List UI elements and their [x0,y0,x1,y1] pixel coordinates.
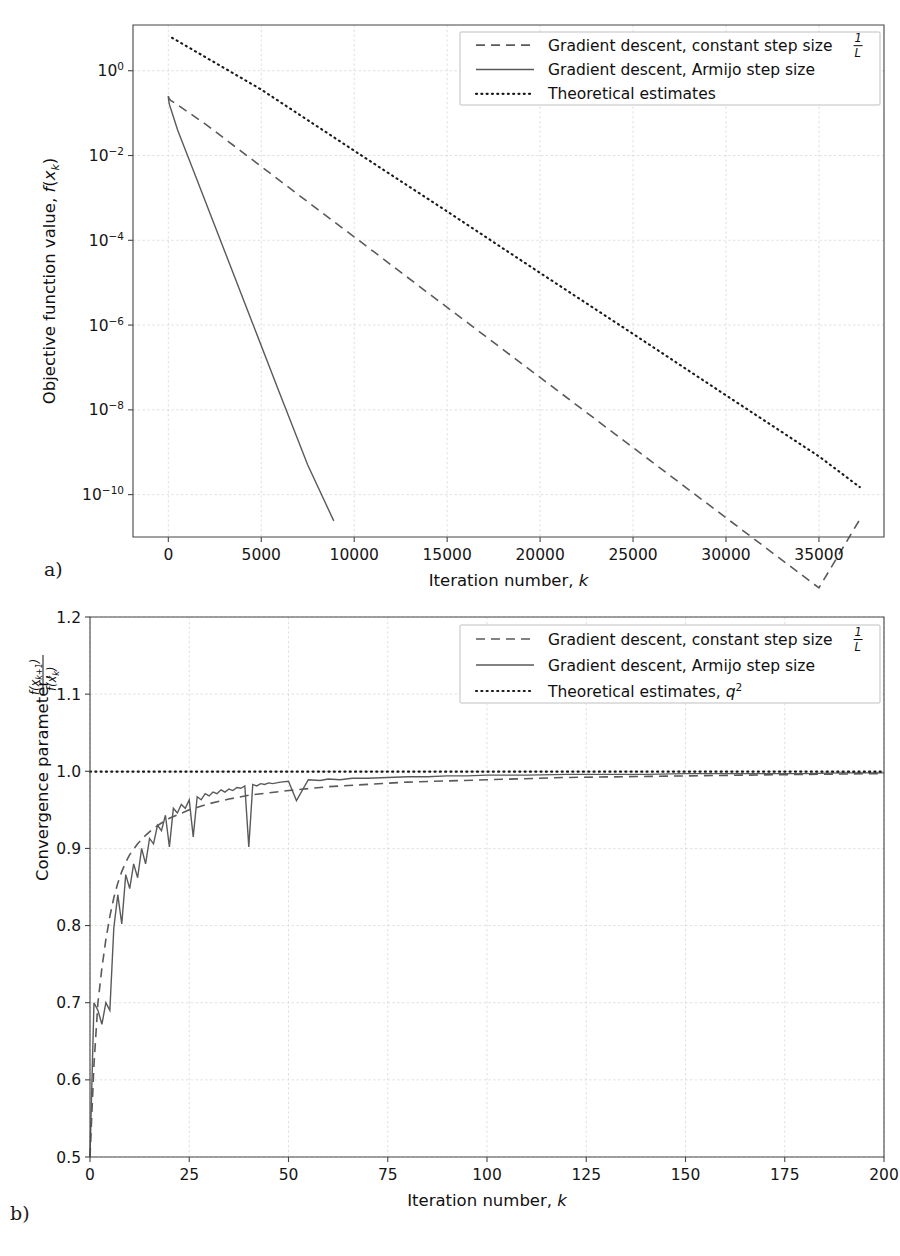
x-tick-label: 75 [378,1166,398,1184]
legend-label: Gradient descent, Armijo step size [548,657,815,675]
series-line-dashed [90,774,884,1157]
y-tick-label: 1.2 [56,609,81,627]
y-tick-label: 100 [98,60,124,80]
legend-fraction-numerator: 1 [855,625,862,639]
x-tick-label: 0 [85,1166,95,1184]
y-tick-label: 0.8 [56,917,81,935]
y-tick-label: 0.9 [56,840,81,858]
series-line-solid [168,96,333,521]
legend-a: Gradient descent, constant step size1LGr… [460,31,880,105]
x-tick-label: 35000 [794,546,843,564]
series-line-dashed [168,96,860,588]
y-axis-title-b-text: Convergence parameter, [33,675,52,881]
y-tick-label: 1.0 [56,763,81,781]
panel-label-b: b) [10,1202,30,1224]
legend-label: Theoretical estimates [547,85,716,103]
y-tick-label: 10−6 [89,315,125,335]
y-tick-label: 10−2 [89,145,124,165]
y-tick-label: 10−10 [82,484,124,504]
x-tick-label: 25 [179,1166,199,1184]
axes-a: 0500010000150002000025000300003500010010… [82,25,884,564]
x-axis-title-a: Iteration number, k [429,571,590,590]
panel-label-a: a) [44,558,63,580]
legend-fraction-denominator: L [855,640,861,654]
y-tick-label: 10−4 [89,230,125,250]
x-tick-label: 15000 [422,546,471,564]
legend-label: Theoretical estimates, q2 [547,681,742,701]
fraction-denominator: f(xk) [45,666,61,691]
chart-a-svg: 0500010000150002000025000300003500010010… [0,0,900,600]
legend-label: Gradient descent, Armijo step size [548,61,815,79]
series-group-a [168,38,860,588]
chart-panel-b: 02550751001251501752000.50.60.70.80.91.0… [0,600,900,1256]
legend-fraction-denominator: L [855,46,861,60]
legend-b: Gradient descent, constant step size1LGr… [460,625,880,703]
figure-container: 0500010000150002000025000300003500010010… [0,0,900,1256]
y-tick-label: 0.5 [56,1149,81,1167]
x-tick-label: 20000 [515,546,564,564]
legend-label: Gradient descent, constant step size [548,37,832,55]
chart-b-svg: 02550751001251501752000.50.60.70.80.91.0… [0,600,900,1256]
x-tick-label: 0 [163,546,173,564]
x-axis-title-b: Iteration number, k [407,1191,568,1210]
x-tick-label: 10000 [330,546,379,564]
x-tick-label: 100 [472,1166,502,1184]
y-tick-label: 0.6 [56,1071,81,1089]
x-tick-label: 30000 [701,546,750,564]
x-tick-label: 5000 [242,546,281,564]
legend-fraction-numerator: 1 [855,31,862,45]
x-tick-label: 50 [279,1166,299,1184]
x-tick-label: 25000 [608,546,657,564]
x-tick-label: 150 [671,1166,701,1184]
y-axis-title-a: Objective function value, f(xk) [40,158,62,405]
legend-label: Gradient descent, constant step size [548,631,832,649]
y-tick-label: 10−8 [89,399,124,419]
chart-panel-a: 0500010000150002000025000300003500010010… [0,0,900,600]
y-tick-label: 1.1 [56,686,81,704]
fraction-numerator: f(xk+1) [28,659,44,695]
x-tick-label: 200 [869,1166,899,1184]
x-tick-label: 175 [770,1166,800,1184]
x-tick-label: 125 [571,1166,601,1184]
y-tick-label: 0.7 [56,994,81,1012]
